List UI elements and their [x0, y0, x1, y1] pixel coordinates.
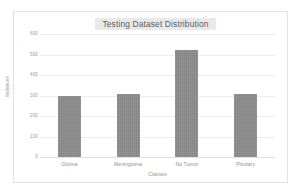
x-axis-title: Classes [40, 171, 275, 177]
x-tick-label: Pituitary [216, 161, 275, 167]
gridline [40, 55, 275, 56]
chart-title: Testing Dataset Distribution [95, 18, 216, 30]
x-tick-label: Glioma [40, 161, 99, 167]
bar[interactable] [234, 94, 257, 157]
y-tick-label: 0 [12, 154, 38, 159]
x-tick-label: No Tumor [158, 161, 217, 167]
y-tick-label: 600 [12, 31, 38, 36]
bar[interactable] [117, 94, 140, 157]
bar[interactable] [58, 96, 81, 158]
y-tick-label: 200 [12, 113, 38, 118]
plot-area [40, 34, 275, 157]
y-tick-label: 100 [12, 134, 38, 139]
y-axis-tick-labels: 0100200300400500600 [8, 34, 38, 157]
gridline [40, 34, 275, 35]
bar[interactable] [175, 50, 198, 157]
y-tick-label: 500 [12, 52, 38, 57]
gridline [40, 157, 275, 158]
x-tick-label: Meningioma [99, 161, 158, 167]
y-tick-label: 300 [12, 93, 38, 98]
chart-figure: Testing Dataset Distribution Instances 0… [0, 0, 301, 195]
x-axis-tick-labels: GliomaMeningiomaNo TumorPituitary [40, 161, 275, 170]
y-tick-label: 400 [12, 72, 38, 77]
gridline [40, 75, 275, 76]
